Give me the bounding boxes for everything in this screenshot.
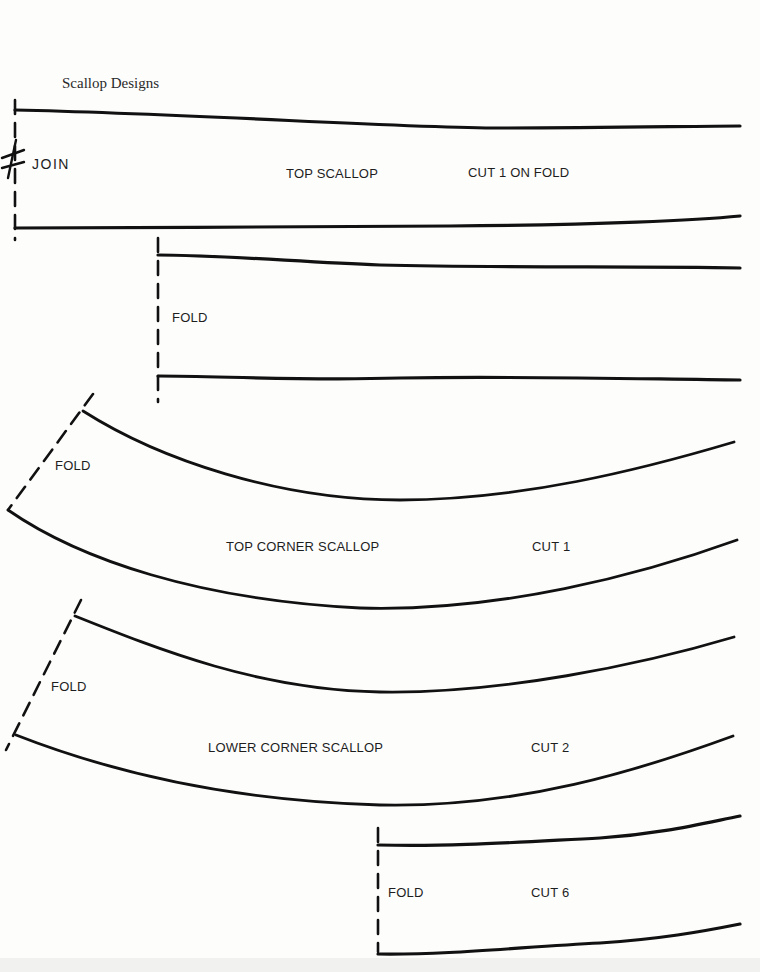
piece-name-top-scallop: TOP SCALLOP (286, 166, 378, 181)
pattern-sheet: Scallop Designs (0, 0, 760, 972)
fold-label-side: FOLD (388, 885, 423, 900)
pattern-outlines (0, 0, 760, 972)
join-label: JOIN (32, 156, 70, 172)
scan-edge (0, 958, 760, 972)
piece-lower-corner-scallop-outline (6, 600, 734, 805)
cut-instruction-top-corner: CUT 1 (532, 539, 570, 554)
cut-instruction-side: CUT 6 (531, 885, 569, 900)
fold-label-piece-2: FOLD (172, 310, 207, 325)
piece-fold-outline (158, 238, 740, 402)
piece-name-lower-corner-scallop: LOWER CORNER SCALLOP (208, 740, 383, 755)
piece-top-corner-scallop-outline (8, 394, 737, 608)
piece-name-top-corner-scallop: TOP CORNER SCALLOP (226, 539, 379, 554)
cut-instruction-lower-corner: CUT 2 (531, 740, 569, 755)
fold-label-top-corner: FOLD (55, 458, 90, 473)
cut-instruction-top-scallop: CUT 1 ON FOLD (468, 165, 569, 180)
fold-label-lower-corner: FOLD (51, 679, 86, 694)
